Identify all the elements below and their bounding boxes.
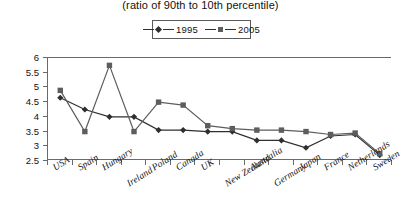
x-axis-labels: USASpainHungaryIrelandPolandCanadaUKNew … — [0, 160, 401, 220]
legend-label: 2005 — [238, 24, 260, 35]
legend-line-icon — [163, 29, 174, 30]
legend-line-icon — [143, 29, 154, 30]
data-point-1995-Australia — [254, 137, 260, 143]
data-point-2005-Germany — [279, 127, 284, 132]
data-point-1995-Japan — [303, 145, 309, 151]
data-point-2005-Ireland — [131, 129, 136, 134]
data-point-1995-Spain — [82, 106, 88, 112]
data-point-2005-USA — [58, 88, 63, 93]
data-point-2005-Spain — [82, 129, 87, 134]
legend-line-icon — [205, 29, 216, 30]
data-point-2005-Canada — [180, 102, 185, 107]
x-axis-label-uk: UK — [199, 157, 216, 173]
y-axis-tick-label: 5 — [34, 81, 39, 92]
series-line-1995 — [60, 98, 379, 155]
series-layer — [48, 58, 392, 161]
data-point-1995-Poland — [155, 127, 161, 133]
data-point-1995-USA — [57, 95, 63, 101]
y-axis: 65.554.543.532.5 — [0, 57, 44, 160]
data-point-1995-Ireland — [131, 114, 137, 120]
y-axis-tick-label: 6 — [34, 52, 39, 63]
y-axis-tick-label: 5.5 — [26, 66, 39, 77]
data-point-2005-Poland — [156, 99, 161, 104]
diamond-marker-icon — [155, 26, 162, 33]
y-axis-tick-label: 3.5 — [26, 125, 39, 136]
data-point-1995-UK — [205, 128, 211, 134]
legend-line-icon — [225, 29, 236, 30]
chart-subtitle: (ratio of 90th to 10th percentile) — [0, 0, 401, 11]
legend-label: 1995 — [176, 24, 198, 35]
chart-legend: 1995 2005 — [152, 20, 251, 39]
data-point-2005-New Zealand — [230, 126, 235, 131]
data-point-1995-Canada — [180, 127, 186, 133]
legend-entry-1995[interactable]: 1995 — [143, 24, 198, 35]
data-point-2005-Japan — [303, 129, 308, 134]
plot-area — [47, 57, 391, 160]
chart-container: (ratio of 90th to 10th percentile) 1995 … — [0, 0, 401, 220]
series-line-2005 — [60, 65, 379, 153]
data-point-2005-Netherlands — [352, 130, 357, 135]
legend-entry-2005[interactable]: 2005 — [205, 24, 260, 35]
data-point-2005-UK — [205, 123, 210, 128]
data-point-2005-Hungary — [107, 63, 112, 68]
data-point-2005-Australia — [254, 127, 259, 132]
data-point-1995-Hungary — [106, 114, 112, 120]
x-axis-label-ireland: Ireland — [125, 165, 154, 188]
data-point-1995-Germany — [278, 137, 284, 143]
y-axis-tick-label: 4 — [34, 110, 39, 121]
data-point-2005-France — [328, 132, 333, 137]
y-axis-tick-label: 4.5 — [26, 96, 39, 107]
y-axis-tick-label: 3 — [34, 140, 39, 151]
square-marker-icon — [218, 27, 223, 32]
